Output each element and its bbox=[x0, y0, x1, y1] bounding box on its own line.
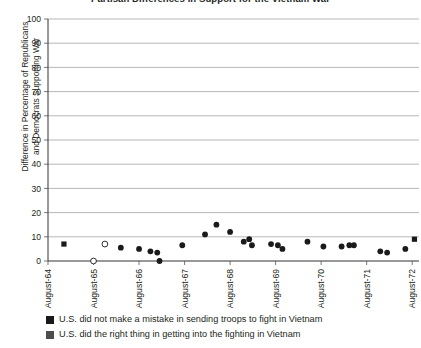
y-axis-tick-label: 50 bbox=[31, 135, 41, 145]
data-point bbox=[339, 244, 345, 250]
legend-item[interactable]: U.S. did the right thing in getting into… bbox=[46, 328, 421, 343]
legend-item-label: U.S. did the right thing in getting into… bbox=[59, 328, 300, 341]
data-point bbox=[280, 246, 286, 252]
y-axis-tick-label: 40 bbox=[31, 159, 41, 169]
data-point bbox=[91, 258, 97, 264]
data-point bbox=[202, 231, 208, 237]
y-axis-tick-label: 80 bbox=[31, 63, 41, 73]
data-point bbox=[157, 258, 163, 264]
y-axis-tick-label: 70 bbox=[31, 87, 41, 97]
data-point bbox=[305, 239, 311, 245]
legend-swatch-icon bbox=[46, 316, 54, 324]
data-point bbox=[227, 229, 233, 235]
data-point bbox=[268, 241, 274, 247]
data-point bbox=[241, 239, 247, 245]
y-axis-tick-label: 30 bbox=[31, 184, 41, 194]
x-axis-tick-label: August-70 bbox=[316, 269, 326, 308]
data-point bbox=[136, 246, 142, 252]
data-point bbox=[148, 248, 154, 254]
data-point bbox=[246, 236, 252, 242]
data-point bbox=[179, 242, 185, 248]
y-axis-tick-label: 90 bbox=[31, 38, 41, 48]
y-axis-tick-label: 20 bbox=[31, 208, 41, 218]
x-axis-tick-label: August-68 bbox=[225, 269, 235, 308]
chart-legend: U.S. did not make a mistake in sending t… bbox=[46, 313, 421, 343]
chart-screenshot: Partisan Differences in Support for the … bbox=[0, 0, 421, 348]
data-point bbox=[402, 246, 408, 252]
y-axis-tick-label: 10 bbox=[31, 232, 41, 242]
plot-area: 0102030405060708090100August-64August-65… bbox=[0, 0, 421, 348]
data-point bbox=[118, 245, 124, 251]
x-axis-tick-label: August-72 bbox=[407, 269, 417, 308]
y-axis-tick-label: 0 bbox=[36, 256, 41, 266]
data-point bbox=[412, 237, 417, 242]
x-axis-tick-label: August-65 bbox=[89, 269, 99, 308]
scatter-plot-svg: 0102030405060708090100August-64August-65… bbox=[0, 0, 421, 348]
data-point bbox=[214, 222, 220, 228]
x-axis-tick-label: August-64 bbox=[43, 269, 53, 308]
data-point bbox=[377, 248, 383, 254]
x-axis-tick-label: August-69 bbox=[271, 269, 281, 308]
data-point bbox=[154, 250, 160, 256]
legend-swatch-icon bbox=[46, 331, 54, 339]
legend-item-label: U.S. did not make a mistake in sending t… bbox=[59, 313, 322, 326]
data-point bbox=[275, 242, 281, 248]
data-point bbox=[321, 244, 327, 250]
x-axis-tick-label: August-71 bbox=[362, 269, 372, 308]
data-point bbox=[249, 242, 255, 248]
y-axis-tick-label: 100 bbox=[27, 14, 42, 24]
legend-item[interactable]: U.S. did not make a mistake in sending t… bbox=[46, 313, 421, 328]
y-axis-tick-label: 60 bbox=[31, 111, 41, 121]
data-point bbox=[61, 241, 66, 246]
x-axis-tick-label: August-66 bbox=[134, 269, 144, 308]
data-point bbox=[102, 241, 108, 247]
data-point bbox=[351, 242, 357, 248]
x-axis-tick-label: August-67 bbox=[180, 269, 190, 308]
data-point bbox=[384, 250, 390, 256]
